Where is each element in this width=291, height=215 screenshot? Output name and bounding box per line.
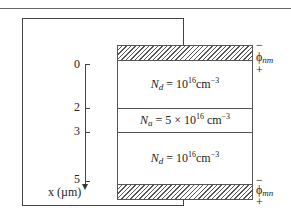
tick-label-0: 0: [60, 57, 80, 72]
bottom-metal-contact: [117, 184, 253, 200]
tick-label-3: 3: [60, 124, 80, 139]
top-metal-contact: [117, 45, 253, 61]
top-rule: [0, 8, 291, 9]
layer-na-middle: Na = 5 × 1016 cm−3: [117, 108, 253, 133]
axis-arrow-icon: [82, 184, 88, 190]
tick-label-2: 2: [60, 100, 80, 115]
layer-nd-bottom: Nd = 1016cm−3: [117, 132, 253, 185]
axis-label: x (µm): [48, 185, 81, 200]
layer-nd-top: Nd = 1016cm−3: [117, 60, 253, 109]
